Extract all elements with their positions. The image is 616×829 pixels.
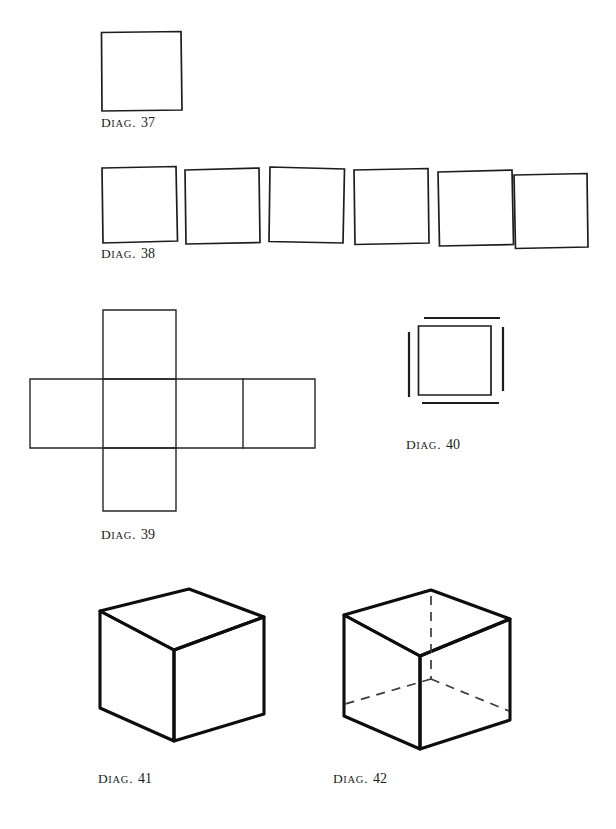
caption-smallcaps: IAG <box>111 118 132 129</box>
caption-lead: D <box>101 115 111 130</box>
square-row-item <box>354 169 429 245</box>
cube-net-drawing <box>26 306 326 516</box>
figure-diag-41 <box>92 586 282 746</box>
caption-smallcaps: IAG <box>343 774 364 785</box>
cube-left-face <box>100 611 174 741</box>
caption-diag-41: DIAG.41 <box>98 771 152 787</box>
figure-diag-38 <box>100 165 590 249</box>
caption-number: 38 <box>141 246 155 261</box>
square-row-item <box>438 170 514 246</box>
solid-cube-drawing <box>92 586 282 746</box>
cube-top-face <box>344 590 510 656</box>
figure-diag-37 <box>100 30 184 114</box>
square-row-item <box>102 167 178 244</box>
figure-diag-39 <box>26 306 326 516</box>
caption-number: 39 <box>141 527 155 542</box>
caption-smallcaps: IAG <box>416 440 437 451</box>
caption-lead: D <box>101 527 111 542</box>
caption-dot: . <box>132 115 136 130</box>
cube-top-face <box>100 589 264 650</box>
caption-number: 42 <box>373 771 387 786</box>
caption-lead: D <box>406 437 416 452</box>
caption-lead: D <box>101 246 111 261</box>
square-row-item <box>185 168 260 244</box>
net-band-outline <box>30 379 315 448</box>
caption-smallcaps: IAG <box>111 530 132 541</box>
cube-right-face <box>174 617 264 741</box>
net-face-bottom <box>103 448 176 511</box>
caption-dot: . <box>132 246 136 261</box>
caption-dot: . <box>364 771 368 786</box>
caption-number: 41 <box>138 771 152 786</box>
figure-diag-40 <box>404 314 514 414</box>
inner-square-outline <box>419 326 492 395</box>
caption-number: 40 <box>446 437 460 452</box>
caption-dot: . <box>132 527 136 542</box>
diagram-page: DIAG.37 DIAG.38 DIAG.39 <box>0 0 616 829</box>
square-row-drawing <box>100 165 590 249</box>
caption-smallcaps: IAG <box>108 774 129 785</box>
square-offset-lines-drawing <box>404 314 514 414</box>
transparent-cube-drawing <box>332 586 532 756</box>
caption-diag-39: DIAG.39 <box>101 527 155 543</box>
cube-right-face <box>420 619 510 749</box>
caption-diag-42: DIAG.42 <box>333 771 387 787</box>
caption-number: 37 <box>141 115 155 130</box>
caption-diag-37: DIAG.37 <box>101 115 155 131</box>
square-outline <box>102 32 183 112</box>
caption-lead: D <box>333 771 343 786</box>
caption-dot: . <box>129 771 133 786</box>
caption-smallcaps: IAG <box>111 249 132 260</box>
caption-dot: . <box>437 437 441 452</box>
hidden-edge-to-right <box>431 679 509 711</box>
cube-left-face <box>344 615 420 749</box>
net-face-top <box>103 310 176 379</box>
square-row-item <box>269 167 345 243</box>
hidden-edge-to-left <box>345 679 431 704</box>
square-row-item <box>514 174 588 249</box>
caption-diag-40: DIAG.40 <box>406 437 460 453</box>
figure-diag-42 <box>332 586 532 756</box>
single-square-drawing <box>100 30 184 114</box>
caption-lead: D <box>98 771 108 786</box>
caption-diag-38: DIAG.38 <box>101 246 155 262</box>
